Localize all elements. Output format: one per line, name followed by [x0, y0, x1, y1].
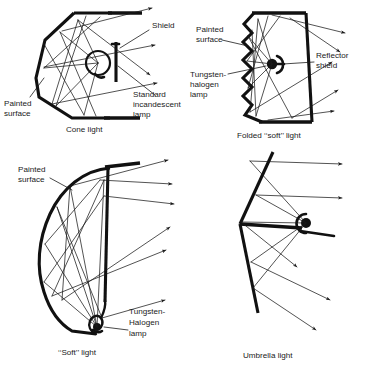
caption-umbrella-light: Umbrella light	[243, 351, 293, 360]
label-reflector-shield-line2: shield	[316, 61, 337, 70]
label-standard-incandescent-lamp: Standard incandescent lamp	[118, 66, 181, 119]
diagram-canvas: Shield Painted surface Standard incandes…	[0, 0, 378, 370]
label-painted-surface-soft: Painted surface	[18, 165, 72, 190]
label-shield-text: Shield	[152, 21, 175, 30]
label-painted-surface-line2: surface	[196, 35, 223, 44]
label-painted-surface-folded: Painted surface	[196, 25, 248, 46]
label-reflector-shield: Reflector shield	[283, 51, 349, 70]
panel-cone-light: Shield Painted surface Standard incandes…	[4, 8, 181, 134]
label-painted-surface-line2: surface	[4, 109, 31, 118]
label-lamp-line1: Standard	[133, 90, 166, 99]
panel-umbrella-light: Umbrella light	[240, 152, 342, 360]
label-painted-surface-line2: surface	[18, 175, 45, 184]
label-tungsten-halogen-lamp-soft: Tungsten- Halogen lamp	[104, 307, 165, 338]
caption-cone-light: Cone light	[66, 125, 103, 134]
label-painted-surface-line1: Painted	[4, 99, 31, 108]
label-painted-surface-line1: Painted	[18, 165, 45, 174]
panel-soft-light: Painted surface Tungsten- Halogen lamp ‘…	[18, 160, 174, 357]
caption-soft-light: ‘‘Soft’’ light	[58, 348, 97, 357]
label-lamp-line2: Halogen	[129, 318, 159, 327]
label-lamp-line3: lamp	[129, 329, 147, 338]
lighting-diagram-figure: Shield Painted surface Standard incandes…	[0, 0, 378, 370]
umbrella-light-lamp	[297, 214, 335, 236]
label-lamp-line1: Tungsten-	[190, 70, 226, 79]
label-shield: Shield	[120, 21, 175, 48]
panel-folded-soft-light: Painted surface Tungsten- halogen lamp R…	[190, 13, 349, 140]
caption-folded-soft-light: Folded ‘‘soft’’ light	[237, 131, 301, 140]
label-lamp-line3: lamp	[133, 110, 151, 119]
label-lamp-line2: halogen	[190, 80, 219, 89]
label-lamp-line3: lamp	[190, 90, 208, 99]
label-lamp-line1: Tungsten-	[129, 307, 165, 316]
label-reflector-shield-line1: Reflector	[316, 51, 349, 60]
label-lamp-line2: incandescent	[133, 100, 181, 109]
folded-light-lamp	[267, 56, 284, 73]
label-painted-surface-line1: Painted	[196, 25, 223, 34]
soft-light-housing	[39, 163, 140, 334]
